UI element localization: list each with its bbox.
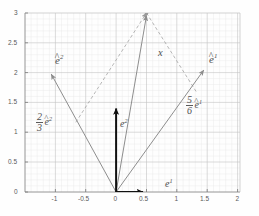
fraction-numerator-2: 2 (36, 112, 43, 122)
e1-superscript: 1 (169, 177, 172, 184)
x-tick-label-1: 1 (175, 196, 179, 203)
fraction-denominator-6: 6 (186, 105, 193, 116)
x-tick-label--0.5: -0.5 (78, 196, 89, 203)
hat-accent-e1: ^ (209, 51, 214, 61)
label-five-sixths-e-hat-1: 5 6 ^e1 (186, 95, 202, 116)
e-hat-1-superscript: 1 (214, 52, 217, 59)
e-hat-2-glyph-scaled: ^e (45, 117, 49, 127)
hat-accent-e1-scaled: ^ (194, 97, 198, 106)
label-e-2: e2 (120, 118, 128, 129)
plot-canvas (0, 0, 259, 216)
label-e-hat-2: ^e2 (55, 54, 63, 66)
y-tick-label-2: 2 (14, 70, 18, 77)
e-hat-1-glyph-scaled: ^e (195, 100, 199, 110)
e2-superscript: 2 (124, 117, 127, 124)
label-e-hat-1: ^e1 (209, 53, 217, 65)
fraction-two-thirds: 2 3 (36, 112, 43, 133)
fraction-five-sixths: 5 6 (186, 95, 193, 116)
e-hat-1-glyph: ^e (209, 54, 214, 65)
fraction-numerator-5: 5 (186, 95, 193, 105)
x-tick-label-1.5: 1.5 (200, 196, 209, 203)
fraction-denominator-3: 3 (36, 122, 43, 133)
e-hat-2-glyph: ^e (55, 55, 60, 66)
y-tick-label-1: 1 (14, 129, 18, 136)
label-x: x (158, 48, 163, 59)
e-hat-1-superscript-scaled: 1 (199, 98, 202, 105)
y-tick-label-2.5: 2.5 (8, 40, 17, 47)
y-tick-label-3: 3 (14, 10, 18, 17)
x-tick-label--1: -1 (52, 196, 58, 203)
x-tip-marker (145, 12, 148, 15)
e-hat-2-superscript-scaled: 2 (49, 115, 52, 122)
y-tick-label-1.5: 1.5 (8, 99, 17, 106)
e-hat-2-superscript: 2 (60, 53, 63, 60)
x-tick-label-0.5: 0.5 (139, 196, 148, 203)
label-two-thirds-e-hat-2: 2 3 ^e2 (36, 112, 52, 133)
y-tick-label-0.5: 0.5 (8, 159, 17, 166)
x-tick-label-0: 0 (114, 196, 118, 203)
hat-accent-e2: ^ (55, 52, 60, 62)
hat-accent-e2-scaled: ^ (44, 114, 48, 123)
y-tick-label-0: 0 (14, 189, 18, 196)
label-e-1: e1 (165, 178, 173, 189)
vector-decomposition-figure: 3 2.5 2 1.5 1 0.5 0 -1 -0.5 0 0.5 1 1.5 … (0, 0, 259, 216)
x-tick-label-2: 2 (236, 196, 240, 203)
